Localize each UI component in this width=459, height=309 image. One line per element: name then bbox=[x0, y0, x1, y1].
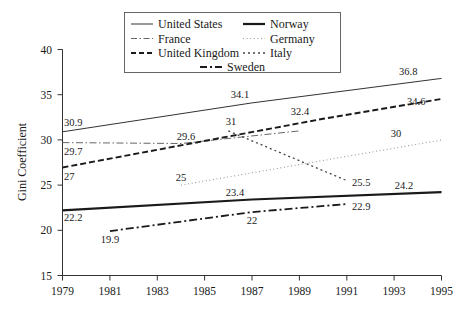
legend-label-sweden: Sweden bbox=[227, 60, 265, 74]
data-label-uk-1995: 34.6 bbox=[407, 96, 425, 107]
x-axis-ticks bbox=[63, 276, 442, 281]
x-tick-label-1981: 1981 bbox=[98, 285, 121, 297]
y-tick-label-25: 25 bbox=[41, 179, 53, 191]
data-label-uk-1979: 27 bbox=[64, 171, 75, 182]
chart-figure: 40 35 30 25 20 15 1979 1981 1983 1985 19… bbox=[0, 0, 459, 309]
data-label-us-1979: 30.9 bbox=[64, 117, 82, 128]
data-label-italy-1986: 31 bbox=[226, 116, 237, 127]
series-line-norway bbox=[63, 192, 442, 210]
chart-legend: United States Norway France Germany Unit… bbox=[125, 13, 341, 75]
data-label-norway-1979: 22.2 bbox=[64, 212, 82, 223]
data-label-france-1984: 29.6 bbox=[177, 131, 195, 142]
data-label-norway-1987: 23.4 bbox=[226, 187, 245, 198]
x-tick-label-1987: 1987 bbox=[241, 285, 264, 297]
x-tick-label-1993: 1993 bbox=[383, 285, 406, 297]
data-labels-group: 30.9 34.1 36.8 29.7 29.6 27 32.4 34.6 25… bbox=[64, 66, 425, 245]
y-axis-ticks bbox=[58, 50, 63, 276]
axis-group: 40 35 30 25 20 15 1979 1981 1983 1985 19… bbox=[15, 44, 453, 298]
legend-label-germany: Germany bbox=[270, 32, 315, 46]
series-group bbox=[63, 78, 442, 231]
legend-label-france: France bbox=[158, 32, 191, 46]
y-tick-label-30: 30 bbox=[41, 134, 53, 146]
y-tick-label-20: 20 bbox=[41, 224, 53, 236]
legend-label-united-kingdom: United Kingdom bbox=[158, 46, 240, 60]
series-line-united-kingdom bbox=[63, 99, 442, 168]
legend-label-norway: Norway bbox=[270, 17, 309, 31]
data-label-us-1987: 34.1 bbox=[231, 89, 249, 100]
series-line-germany bbox=[181, 140, 442, 185]
data-label-us-1995: 36.8 bbox=[399, 66, 417, 77]
legend-label-united-states: United States bbox=[158, 17, 223, 31]
data-label-germany-1984: 25 bbox=[176, 172, 187, 183]
x-tick-label-1991: 1991 bbox=[335, 285, 358, 297]
legend-label-italy: Italy bbox=[270, 46, 292, 60]
data-label-norway-1995: 24.2 bbox=[395, 180, 413, 191]
x-tick-label-1995: 1995 bbox=[430, 285, 453, 297]
gini-coefficient-line-chart: 40 35 30 25 20 15 1979 1981 1983 1985 19… bbox=[0, 0, 459, 309]
y-tick-label-35: 35 bbox=[41, 89, 53, 101]
y-tick-label-40: 40 bbox=[41, 44, 53, 56]
data-label-sweden-1991: 22.9 bbox=[352, 201, 370, 212]
axis-lines bbox=[63, 50, 442, 276]
y-tick-label-15: 15 bbox=[41, 270, 53, 282]
y-axis-title: Gini Coefficient bbox=[15, 122, 29, 201]
data-label-italy-1991: 25.5 bbox=[352, 177, 370, 188]
data-label-uk-1990: 32.4 bbox=[291, 106, 310, 117]
x-tick-label-1979: 1979 bbox=[51, 285, 74, 297]
series-line-italy bbox=[228, 131, 346, 181]
data-label-sweden-1987: 22 bbox=[247, 215, 258, 226]
series-line-united-states bbox=[63, 78, 442, 131]
x-tick-label-1983: 1983 bbox=[146, 285, 169, 297]
x-tick-label-1989: 1989 bbox=[288, 285, 311, 297]
data-label-france-1979: 29.7 bbox=[64, 146, 82, 157]
x-tick-label-1985: 1985 bbox=[193, 285, 216, 297]
data-label-germany-1995: 30 bbox=[391, 128, 402, 139]
data-label-sweden-1981: 19.9 bbox=[101, 234, 119, 245]
series-line-sweden bbox=[110, 204, 347, 231]
